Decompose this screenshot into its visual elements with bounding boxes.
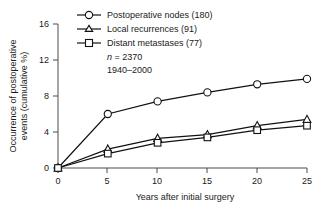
legend-label-0: Postoperative nodes (180): [107, 10, 213, 20]
annotation-sample-size: n = 2370: [107, 52, 142, 62]
series-line-0: [58, 79, 307, 168]
x-tick-label-20: 20: [252, 176, 262, 186]
annotations: n = 2370 1940–2000: [107, 52, 152, 75]
data-point-square: [154, 140, 161, 147]
data-point-square: [254, 127, 261, 134]
x-axis-ticks: 0 5 10 15 20 25: [55, 168, 312, 186]
series-layer: [54, 75, 311, 171]
annotation-year-range: 1940–2000: [107, 65, 152, 75]
legend-label-1: Local recurrences (91): [107, 24, 197, 34]
x-tick-label-25: 25: [302, 176, 312, 186]
data-point-circle: [254, 81, 261, 88]
data-point-square: [55, 165, 62, 172]
chart-container: 0 4 8 12 16 0 5 10 15 20 25 Years after …: [0, 0, 322, 206]
series-line-2: [58, 126, 307, 168]
y-tick-label-4: 4: [44, 127, 49, 137]
legend-label-2: Distant metastases (77): [107, 38, 202, 48]
y-tick-label-0: 0: [44, 163, 49, 173]
x-tick-label-5: 5: [104, 176, 109, 186]
data-point-triangle: [303, 115, 311, 122]
data-point-circle: [303, 75, 310, 82]
x-axis-title: Years after initial surgery: [136, 192, 235, 202]
y-tick-label-16: 16: [39, 19, 49, 29]
legend-item-postoperative-nodes[interactable]: Postoperative nodes (180): [77, 10, 213, 20]
legend-circle-icon: [85, 11, 92, 18]
data-point-square: [304, 122, 311, 129]
data-point-square: [204, 134, 211, 141]
y-axis-ticks: 0 4 8 12 16: [39, 19, 58, 173]
data-point-circle: [104, 110, 111, 117]
y-axis-title-line1: Occurrence of postoperative: [8, 39, 18, 152]
x-tick-label-0: 0: [55, 176, 60, 186]
line-chart: 0 4 8 12 16 0 5 10 15 20 25 Years after …: [0, 0, 322, 206]
legend-item-local-recurrences[interactable]: Local recurrences (91): [77, 24, 197, 34]
data-point-square: [105, 150, 112, 157]
x-tick-label-15: 15: [202, 176, 212, 186]
data-point-circle: [154, 98, 161, 105]
legend: Postoperative nodes (180) Local recurren…: [77, 10, 213, 48]
annotation-n-value: = 2370: [112, 52, 142, 62]
legend-square-icon: [86, 40, 93, 47]
y-axis-title-line2: events (cumulative %): [19, 52, 29, 141]
series-triangle: [54, 115, 311, 171]
y-tick-label-12: 12: [39, 55, 49, 65]
legend-item-distant-metastases[interactable]: Distant metastases (77): [77, 38, 202, 48]
x-tick-label-10: 10: [152, 176, 162, 186]
data-point-circle: [204, 89, 211, 96]
y-tick-label-8: 8: [44, 91, 49, 101]
